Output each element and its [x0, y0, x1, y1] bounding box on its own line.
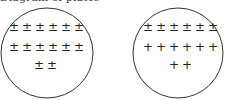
- plus-minus-symbol: ±: [143, 20, 153, 34]
- plus-minus-symbol: ±: [156, 20, 166, 34]
- plus-symbol: +: [169, 40, 179, 54]
- plus-minus-symbol: ±: [182, 20, 192, 34]
- plus-minus-symbol: ±: [48, 40, 58, 54]
- plus-minus-symbol: ±: [34, 58, 44, 72]
- plus-symbol: +: [182, 58, 192, 72]
- plus-minus-symbol: ±: [169, 20, 179, 34]
- plus-minus-symbol: ±: [195, 20, 205, 34]
- plus-minus-symbol: ±: [74, 40, 84, 54]
- plus-minus-symbol: ±: [9, 40, 19, 54]
- plus-symbol: +: [208, 40, 218, 54]
- left-plate-symbols: ±±±±±±±±±±±±±±: [9, 20, 84, 72]
- plus-symbol: +: [143, 40, 153, 54]
- plus-minus-symbol: ±: [61, 40, 71, 54]
- plus-symbol: +: [182, 40, 192, 54]
- plus-minus-symbol: ±: [48, 20, 58, 34]
- plus-minus-symbol: ±: [74, 20, 84, 34]
- plus-symbol: +: [169, 58, 179, 72]
- plus-minus-symbol: ±: [22, 40, 32, 54]
- plus-minus-symbol: ±: [35, 20, 45, 34]
- right-plate-symbols: ±±±±±±++++++++: [143, 20, 218, 72]
- plus-minus-symbol: ±: [47, 58, 57, 72]
- plus-minus-symbol: ±: [35, 40, 45, 54]
- plus-minus-symbol: ±: [61, 20, 71, 34]
- plus-symbol: +: [195, 40, 205, 54]
- plus-minus-symbol: ±: [22, 20, 32, 34]
- two-plate-diagram: ±±±±±±±±±±±±±± ±±±±±±++++++++: [0, 0, 227, 100]
- plus-symbol: +: [156, 40, 166, 54]
- plus-minus-symbol: ±: [208, 20, 218, 34]
- plus-minus-symbol: ±: [9, 20, 19, 34]
